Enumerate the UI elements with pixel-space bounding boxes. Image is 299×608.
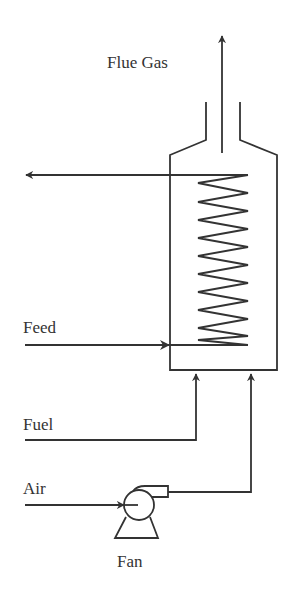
fan-label: Fan (117, 552, 143, 571)
fuel-label: Fuel (23, 415, 54, 434)
flue-gas-label: Flue Gas (107, 53, 168, 72)
air-to-furnace-line (168, 374, 251, 492)
fired-heater-diagram: Flue Gas Feed Fuel Air Fan (0, 0, 299, 608)
heating-coil (198, 175, 248, 345)
air-label: Air (23, 479, 46, 498)
fan-icon (115, 486, 168, 538)
feed-label: Feed (23, 318, 57, 337)
furnace-vessel (170, 102, 277, 370)
